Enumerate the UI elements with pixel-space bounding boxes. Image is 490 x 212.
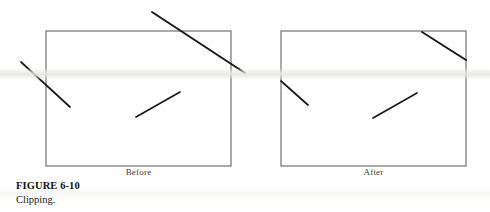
figure-caption: FIGURE 6-10 Clipping. <box>16 180 266 206</box>
panel-label-before: Before <box>46 167 231 177</box>
panel-label-after: After <box>281 167 466 177</box>
panel-before <box>21 12 245 166</box>
figure-clipping: Before After FIGURE 6-10 Clipping. <box>0 0 490 212</box>
clip-rectangle-before <box>46 31 231 166</box>
line-clipped-top-right-diagonal <box>422 32 466 60</box>
line-interior-diagonal <box>136 92 180 117</box>
figure-caption-title: FIGURE 6-10 <box>16 180 266 192</box>
figure-caption-text: Clipping. <box>16 193 266 206</box>
clip-rectangle-after <box>281 31 466 166</box>
line-interior-diagonal <box>373 93 417 118</box>
line-clipped-left-diagonal <box>281 81 308 105</box>
panel-after <box>281 31 466 166</box>
